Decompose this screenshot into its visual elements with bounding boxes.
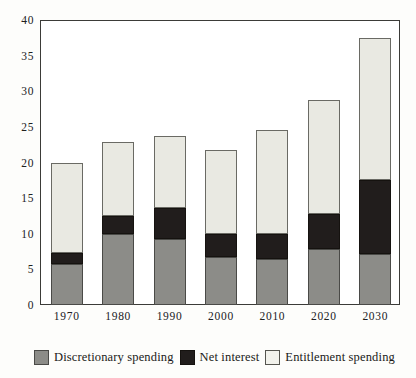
y-tick-label: 15 [21,192,34,204]
bar-segment[interactable] [205,150,237,235]
bar-segment[interactable] [154,136,186,208]
y-tick-label: 30 [21,85,34,97]
legend-label: Entitlement spending [285,350,395,365]
y-axis: 0510152025303540 [0,0,40,378]
bar-segment[interactable] [102,142,134,216]
y-tick-label: 25 [21,121,34,133]
x-tick-label: 2030 [362,310,388,322]
x-axis: 1970198019902000201020202030 [40,310,400,332]
x-tick-label: 2000 [208,310,234,322]
bar-segment[interactable] [51,253,83,264]
bar-segment[interactable] [359,180,391,253]
bars-layer [40,20,400,305]
bar-segment[interactable] [154,239,186,305]
bar-group[interactable] [205,150,237,305]
bar-segment[interactable] [359,254,391,305]
legend-swatch-discretionary [34,350,49,365]
legend-item[interactable]: Net interest [180,350,260,365]
bar-segment[interactable] [256,259,288,305]
bar-segment[interactable] [308,100,340,214]
legend-item[interactable]: Entitlement spending [265,350,395,365]
legend-item[interactable]: Discretionary spending [34,350,174,365]
bar-group[interactable] [359,38,391,305]
x-tick-label: 1970 [54,310,80,322]
y-tick-label: 35 [21,50,34,62]
bar-segment[interactable] [102,216,134,235]
bar-segment[interactable] [308,249,340,305]
x-tick-label: 2020 [311,310,337,322]
y-tick-label: 5 [28,263,34,275]
bar-segment[interactable] [256,130,288,234]
stacked-bar-chart-figure: 0510152025303540 19701980199020002010202… [0,0,416,378]
bar-group[interactable] [102,142,134,305]
legend-label: Discretionary spending [54,350,174,365]
legend-swatch-interest [180,350,195,365]
bar-group[interactable] [154,136,186,305]
bar-segment[interactable] [205,234,237,257]
bar-segment[interactable] [359,38,391,181]
chart-legend: Discretionary spendingNet interestEntitl… [34,345,406,369]
y-tick-label: 40 [21,14,34,26]
bar-segment[interactable] [154,208,186,239]
y-tick-label: 10 [21,228,34,240]
bar-group[interactable] [51,163,83,305]
x-tick-label: 1990 [157,310,183,322]
bar-segment[interactable] [205,257,237,305]
y-tick-label: 0 [28,299,34,311]
bar-group[interactable] [256,130,288,305]
bar-segment[interactable] [102,234,134,305]
x-tick-label: 1980 [105,310,131,322]
y-tick-label: 20 [21,157,34,169]
bar-segment[interactable] [308,214,340,249]
bar-segment[interactable] [51,163,83,253]
bar-group[interactable] [308,100,340,305]
bar-segment[interactable] [256,234,288,259]
x-tick-label: 2010 [260,310,286,322]
legend-swatch-entitlement [265,350,280,365]
bar-segment[interactable] [51,264,83,305]
legend-label: Net interest [200,350,260,365]
